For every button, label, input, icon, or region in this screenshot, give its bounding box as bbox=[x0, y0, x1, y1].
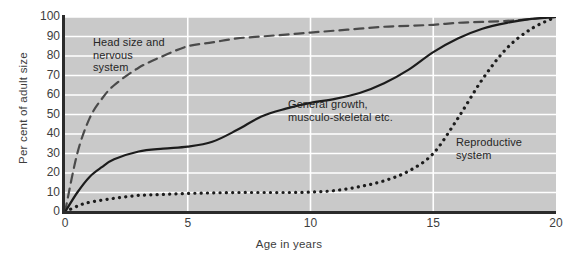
annotation-reproductive-system: Reproductive system bbox=[456, 136, 522, 161]
y-tick-70: 70 bbox=[20, 70, 60, 80]
x-axis-tick-labels: 05101520 bbox=[0, 216, 578, 236]
y-tick-0: 0 bbox=[20, 206, 60, 216]
x-tick-15: 15 bbox=[413, 216, 453, 230]
growth-curves-chart: Per cent of adult size 01020304050607080… bbox=[0, 0, 578, 264]
annotation-general-growth: General growth, musculo-skeletal etc. bbox=[288, 98, 393, 123]
y-tick-30: 30 bbox=[20, 148, 60, 158]
y-tick-50: 50 bbox=[20, 109, 60, 119]
x-axis-title: Age in years bbox=[0, 238, 578, 250]
x-axis-line bbox=[62, 211, 556, 214]
y-tick-60: 60 bbox=[20, 89, 60, 99]
y-tick-100: 100 bbox=[20, 11, 60, 21]
y-tick-10: 10 bbox=[20, 187, 60, 197]
y-axis-line bbox=[62, 15, 65, 214]
annotation-head-size-nervous-system: Head size and nervous system bbox=[93, 36, 165, 74]
x-tick-10: 10 bbox=[291, 216, 331, 230]
y-tick-90: 90 bbox=[20, 31, 60, 41]
y-tick-40: 40 bbox=[20, 128, 60, 138]
x-tick-20: 20 bbox=[536, 216, 576, 230]
x-tick-0: 0 bbox=[45, 216, 85, 230]
y-tick-80: 80 bbox=[20, 50, 60, 60]
x-tick-5: 5 bbox=[168, 216, 208, 230]
y-tick-20: 20 bbox=[20, 167, 60, 177]
